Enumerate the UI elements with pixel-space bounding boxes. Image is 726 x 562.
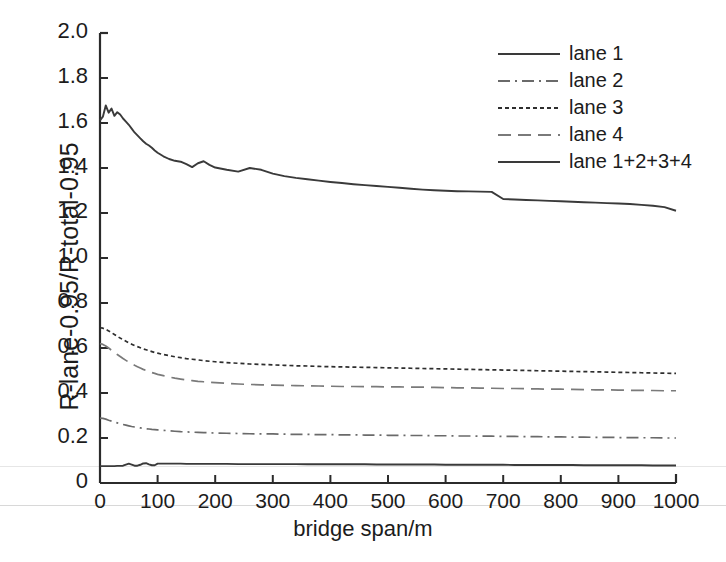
legend-item-label: lane 3 (569, 96, 624, 119)
y-tick-label: 1.6 (28, 108, 88, 134)
legend-item-1: lane 1 (498, 40, 724, 67)
legend-item-label: lane 2 (569, 69, 624, 92)
legend-item-5: lane 1+2+3+4 (498, 148, 724, 175)
legend-item-label: lane 1 (569, 42, 624, 65)
series-line-3 (100, 328, 676, 374)
legend-line-swatch (498, 155, 560, 169)
x-tick-label: 1000 (636, 489, 716, 513)
chart-figure: R-lane-0.95/R-total-0.95 bridge span/m 0… (0, 0, 726, 562)
legend-line-swatch (498, 47, 560, 61)
legend-item-2: lane 2 (498, 67, 724, 94)
y-tick-label: 1.0 (28, 243, 88, 269)
series-line-2 (100, 418, 676, 438)
chart-legend: lane 1lane 2lane 3lane 4lane 1+2+3+4 (498, 40, 724, 175)
y-tick-label: 0.4 (28, 378, 88, 404)
y-tick-label: 0.2 (28, 423, 88, 449)
legend-item-label: lane 1+2+3+4 (569, 150, 692, 173)
legend-item-4: lane 4 (498, 121, 724, 148)
legend-line-swatch (498, 101, 560, 115)
legend-item-3: lane 3 (498, 94, 724, 121)
y-tick-label: 1.8 (28, 63, 88, 89)
legend-line-swatch (498, 74, 560, 88)
legend-item-label: lane 4 (569, 123, 624, 146)
legend-line-swatch (498, 128, 560, 142)
y-tick-label: 2.0 (28, 18, 88, 44)
y-tick-label: 0.6 (28, 333, 88, 359)
y-tick-label: 1.4 (28, 153, 88, 179)
series-line-1 (100, 463, 676, 466)
y-tick-label: 0.8 (28, 288, 88, 314)
y-tick-label: 1.2 (28, 198, 88, 224)
